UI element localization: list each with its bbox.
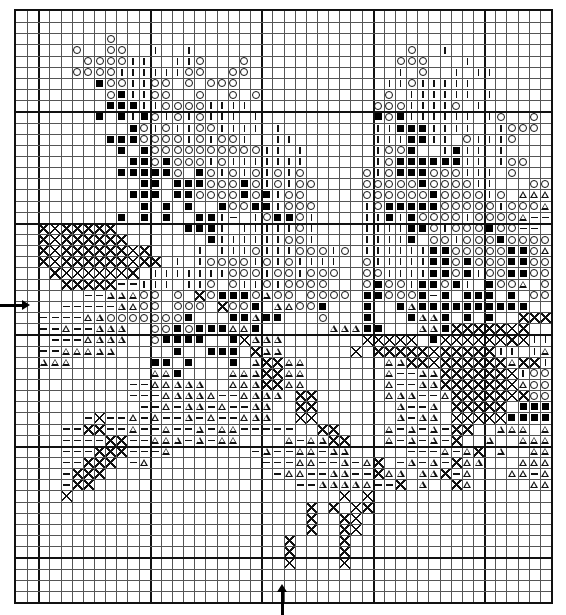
filled-square-stitch-icon (506, 256, 517, 267)
circle-stitch-icon (228, 167, 239, 178)
dash-stitch-icon (440, 424, 451, 435)
dash-stitch-icon (205, 401, 216, 412)
triangle-stitch-icon (540, 346, 551, 357)
triangle-stitch-icon (161, 390, 172, 401)
circle-stitch-icon (451, 245, 462, 256)
filled-square-stitch-icon (462, 290, 473, 301)
dash-stitch-icon (127, 279, 138, 290)
bar-stitch-icon (284, 134, 295, 145)
filled-square-stitch-icon (395, 123, 406, 134)
cross-hatch-stitch-icon (306, 412, 317, 423)
bar-stitch-icon (473, 167, 484, 178)
grid-line (16, 123, 551, 124)
circle-stitch-icon (295, 201, 306, 212)
triangle-stitch-icon (61, 323, 72, 334)
circle-stitch-icon (194, 123, 205, 134)
triangle-stitch-icon (384, 390, 395, 401)
cross-hatch-stitch-icon (306, 390, 317, 401)
cross-hatch-stitch-icon (506, 368, 517, 379)
bar-stitch-icon (172, 67, 183, 78)
filled-square-stitch-icon (194, 212, 205, 223)
bar-stitch-icon (495, 123, 506, 134)
circle-stitch-icon (105, 78, 116, 89)
circle-stitch-icon (250, 189, 261, 200)
triangle-stitch-icon (94, 312, 105, 323)
circle-stitch-icon (428, 234, 439, 245)
triangle-stitch-icon (295, 468, 306, 479)
circle-stitch-icon (105, 44, 116, 55)
circle-stitch-icon (384, 89, 395, 100)
cross-hatch-stitch-icon (395, 346, 406, 357)
cross-hatch-stitch-icon (83, 279, 94, 290)
cross-hatch-stitch-icon (451, 457, 462, 468)
dash-stitch-icon (49, 346, 60, 357)
circle-stitch-icon (529, 123, 540, 134)
bar-stitch-icon (417, 89, 428, 100)
triangle-stitch-icon (540, 424, 551, 435)
circle-stitch-icon (406, 189, 417, 200)
cross-hatch-stitch-icon (72, 468, 83, 479)
triangle-stitch-icon (217, 424, 228, 435)
bar-stitch-icon (440, 89, 451, 100)
bar-stitch-icon (127, 89, 138, 100)
triangle-stitch-icon (250, 368, 261, 379)
cross-hatch-stitch-icon (451, 379, 462, 390)
circle-stitch-icon (540, 390, 551, 401)
circle-stitch-icon (451, 201, 462, 212)
cross-hatch-stitch-icon (83, 267, 94, 278)
cross-hatch-stitch-icon (83, 234, 94, 245)
circle-stitch-icon (473, 234, 484, 245)
filled-square-stitch-icon (217, 290, 228, 301)
triangle-stitch-icon (172, 379, 183, 390)
bar-stitch-icon (228, 156, 239, 167)
bar-stitch-icon (272, 234, 283, 245)
dash-stitch-icon (306, 479, 317, 490)
bar-stitch-icon (417, 100, 428, 111)
triangle-stitch-icon (428, 412, 439, 423)
circle-stitch-icon (473, 212, 484, 223)
bar-stitch-icon (205, 134, 216, 145)
cross-hatch-stitch-icon (339, 524, 350, 535)
filled-square-stitch-icon (239, 178, 250, 189)
triangle-stitch-icon (506, 424, 517, 435)
circle-stitch-icon (317, 290, 328, 301)
cross-hatch-stitch-icon (72, 245, 83, 256)
grid-line (16, 100, 551, 101)
filled-square-stitch-icon (518, 412, 529, 423)
cross-hatch-stitch-icon (295, 412, 306, 423)
triangle-stitch-icon (239, 368, 250, 379)
bar-stitch-icon (317, 256, 328, 267)
triangle-stitch-icon (518, 189, 529, 200)
circle-stitch-icon (384, 156, 395, 167)
bar-stitch-icon (205, 156, 216, 167)
circle-stitch-icon (139, 134, 150, 145)
cross-hatch-stitch-icon (94, 245, 105, 256)
circle-stitch-icon (205, 256, 216, 267)
filled-square-stitch-icon (228, 290, 239, 301)
triangle-stitch-icon (284, 368, 295, 379)
bar-stitch-icon (529, 346, 540, 357)
dash-stitch-icon (428, 290, 439, 301)
circle-stitch-icon (284, 267, 295, 278)
dash-stitch-icon (406, 368, 417, 379)
triangle-stitch-icon (295, 368, 306, 379)
cross-hatch-stitch-icon (272, 357, 283, 368)
circle-stitch-icon (284, 201, 295, 212)
cross-hatch-stitch-icon (105, 234, 116, 245)
filled-square-stitch-icon (127, 189, 138, 200)
bar-stitch-icon (462, 167, 473, 178)
grid-line (16, 223, 551, 225)
dash-stitch-icon (395, 435, 406, 446)
dash-stitch-icon (228, 401, 239, 412)
triangle-stitch-icon (529, 479, 540, 490)
bar-stitch-icon (540, 357, 551, 368)
cross-hatch-stitch-icon (116, 234, 127, 245)
triangle-stitch-icon (183, 379, 194, 390)
dash-stitch-icon (83, 323, 94, 334)
dash-stitch-icon (362, 468, 373, 479)
circle-stitch-icon (317, 267, 328, 278)
bar-stitch-icon (217, 234, 228, 245)
circle-stitch-icon (362, 189, 373, 200)
grid-line (16, 201, 551, 202)
triangle-stitch-icon (183, 412, 194, 423)
